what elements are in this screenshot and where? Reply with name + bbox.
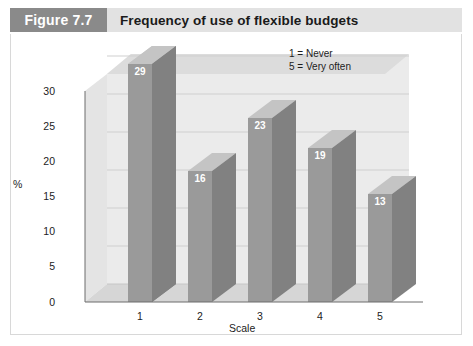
bar-value-3: 23 [245,120,275,131]
y-tick-15: 15 [29,190,55,202]
y-tick-5: 5 [29,260,55,272]
bar-category-1 [128,46,176,302]
x-tick-1: 1 [127,310,153,322]
chart-legend: 1 = Never 5 = Very often [289,48,351,72]
bar-value-4: 19 [305,150,335,161]
x-tick-3: 3 [247,310,273,322]
figure-screenshot: Figure 7.7 Frequency of use of flexible … [0,0,473,346]
figure-title: Frequency of use of flexible budgets [120,8,358,32]
bar-value-2: 16 [185,173,215,184]
y-axis-label: % [13,178,22,190]
y-tick-0: 0 [29,296,55,308]
legend-item-never: 1 = Never [289,48,351,59]
bar-chart-plot: 30 25 20 15 10 5 0 % 1 2 3 4 5 Scale 29 … [11,34,461,334]
y-tick-10: 10 [29,225,55,237]
y-tick-30: 30 [29,85,55,97]
chart-svg [11,34,461,334]
y-tick-20: 20 [29,155,55,167]
bar-value-5: 13 [365,196,395,207]
figure-header: Figure 7.7 Frequency of use of flexible … [10,8,462,32]
y-tick-25: 25 [29,120,55,132]
bar-value-1: 29 [125,66,155,77]
x-axis-label: Scale [229,322,255,334]
bar-category-5 [368,176,416,302]
chart-left-bevel [85,74,107,302]
x-tick-2: 2 [187,310,213,322]
chart-card: 30 25 20 15 10 5 0 % 1 2 3 4 5 Scale 29 … [10,34,462,335]
x-tick-5: 5 [367,310,393,322]
legend-item-very-often: 5 = Very often [289,61,351,72]
x-tick-4: 4 [307,310,333,322]
figure-number-tag: Figure 7.7 [10,8,107,32]
